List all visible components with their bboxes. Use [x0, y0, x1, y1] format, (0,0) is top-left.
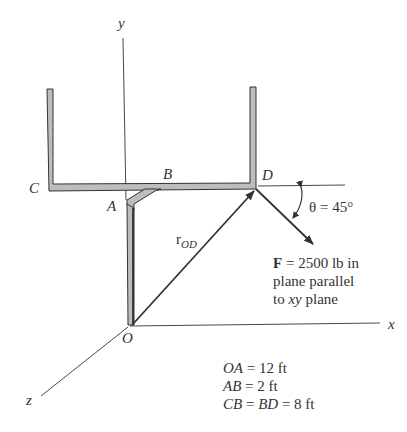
- point-label-d: D: [261, 167, 273, 183]
- pipe-assembly-diagram: y x z rOD θ = 45° C B A D O F = 2500 lb …: [0, 0, 407, 432]
- r-od-vector: [133, 191, 254, 324]
- pipe-cd-u-frame: [47, 87, 256, 191]
- r-od-label: rOD: [176, 231, 197, 250]
- theta-angle-arc: [293, 187, 302, 218]
- force-description-line2: plane parallel: [273, 273, 354, 289]
- force-description-line3: to xy plane: [273, 291, 338, 307]
- y-axis: [123, 38, 126, 200]
- origin-label: O: [122, 330, 133, 346]
- force-vector-f: [256, 189, 313, 244]
- y-axis-label: y: [116, 15, 125, 31]
- z-axis-label: z: [25, 392, 32, 408]
- x-axis-label: x: [387, 316, 395, 332]
- dimension-cb-bd: CB = BD = 8 ft: [223, 396, 315, 412]
- point-label-b: B: [163, 166, 172, 182]
- dimension-oa: OA = 12 ft: [223, 360, 288, 376]
- point-label-a: A: [106, 198, 117, 214]
- force-description-line1: F = 2500 lb in: [273, 255, 359, 271]
- x-axis: [130, 323, 380, 326]
- reference-line-d: [258, 185, 345, 186]
- theta-label: θ = 45°: [309, 199, 353, 215]
- z-axis: [41, 327, 128, 396]
- dimension-ab: AB = 2 ft: [222, 378, 279, 394]
- point-label-c: C: [29, 180, 40, 196]
